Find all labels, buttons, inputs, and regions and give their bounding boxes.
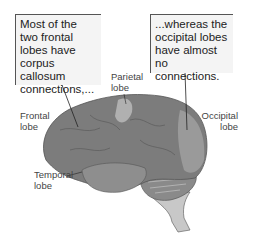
occipital-callout-text: ...whereas the occipital lobes have almo… <box>155 18 227 82</box>
occipital-label-line2: lobe <box>194 122 238 133</box>
parietal-label-line2: lobe <box>111 83 143 94</box>
temporal-label-line1: Temporal <box>34 170 73 181</box>
occipital-callout: ...whereas the occipital lobes have almo… <box>150 14 233 73</box>
occipital-label-line1: Occipital <box>194 111 238 122</box>
temporal-label-line2: lobe <box>34 181 73 192</box>
parietal-label: Parietal lobe <box>111 72 143 93</box>
occipital-label: Occipital lobe <box>194 111 238 132</box>
frontal-callout: Most of the two frontal lobes have corpu… <box>15 14 101 85</box>
frontal-label-line1: Frontal <box>20 111 50 122</box>
parietal-label-line1: Parietal <box>111 72 143 83</box>
frontal-label-line2: lobe <box>20 122 50 133</box>
frontal-callout-text: Most of the two frontal lobes have corpu… <box>20 18 94 95</box>
temporal-label: Temporal lobe <box>34 170 73 191</box>
frontal-label: Frontal lobe <box>20 111 50 132</box>
